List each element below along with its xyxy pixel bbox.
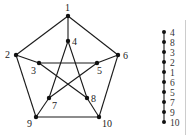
petersen-graph: 12345678910 bbox=[5, 2, 128, 129]
path-vertex-label: 2 bbox=[170, 58, 175, 68]
path-vertex-6 bbox=[162, 80, 166, 84]
path-vertex-8 bbox=[162, 40, 166, 44]
path-vertex-label: 8 bbox=[170, 38, 175, 48]
path-vertex-label: 3 bbox=[170, 48, 175, 58]
path-vertex-5 bbox=[162, 90, 166, 94]
graph-node-labels: 12345678910 bbox=[5, 2, 128, 129]
vertex-4 bbox=[66, 39, 70, 43]
vertex-10 bbox=[97, 115, 101, 119]
vertex-order-path: 48321657910 bbox=[162, 28, 180, 128]
edge-9-7 bbox=[36, 98, 49, 117]
vertex-label: 10 bbox=[102, 118, 112, 129]
vertex-label: 7 bbox=[52, 100, 57, 111]
path-vertex-10 bbox=[162, 120, 166, 124]
path-vertex-label: 6 bbox=[170, 78, 175, 88]
edge-1-2 bbox=[16, 16, 68, 55]
vertex-8 bbox=[85, 96, 89, 100]
vertex-7 bbox=[47, 96, 51, 100]
path-vertex-label: 9 bbox=[170, 108, 175, 118]
path-labels: 48321657910 bbox=[170, 28, 180, 128]
path-vertex-7 bbox=[162, 100, 166, 104]
vertex-1 bbox=[66, 14, 70, 18]
edge-5-7 bbox=[49, 63, 97, 98]
vertex-label: 6 bbox=[123, 50, 128, 61]
edge-3-8 bbox=[39, 63, 87, 98]
path-vertex-2 bbox=[162, 60, 166, 64]
diagram-canvas: 12345678910 48321657910 bbox=[0, 0, 186, 135]
vertex-6 bbox=[116, 53, 120, 57]
path-vertex-label: 5 bbox=[170, 88, 175, 98]
vertex-label: 9 bbox=[27, 118, 32, 129]
edge-6-5 bbox=[97, 55, 118, 63]
vertex-label: 5 bbox=[97, 65, 102, 76]
vertex-3 bbox=[37, 61, 41, 65]
path-vertex-label: 7 bbox=[170, 98, 175, 108]
path-vertex-label: 4 bbox=[170, 28, 175, 38]
vertex-label: 3 bbox=[31, 65, 36, 76]
edge-4-8 bbox=[68, 41, 87, 98]
vertex-9 bbox=[34, 115, 38, 119]
path-vertex-3 bbox=[162, 50, 166, 54]
path-vertex-9 bbox=[162, 110, 166, 114]
vertex-label: 1 bbox=[65, 2, 70, 13]
vertex-label: 4 bbox=[72, 36, 77, 47]
path-vertex-1 bbox=[162, 70, 166, 74]
vertex-label: 8 bbox=[91, 93, 96, 104]
graph-nodes bbox=[14, 14, 120, 119]
path-vertex-label: 10 bbox=[170, 118, 180, 128]
path-vertex-4 bbox=[162, 30, 166, 34]
vertex-2 bbox=[14, 53, 18, 57]
edge-2-3 bbox=[16, 55, 39, 63]
vertex-label: 2 bbox=[5, 49, 10, 60]
edge-4-7 bbox=[49, 41, 68, 98]
path-vertex-label: 1 bbox=[170, 68, 175, 78]
